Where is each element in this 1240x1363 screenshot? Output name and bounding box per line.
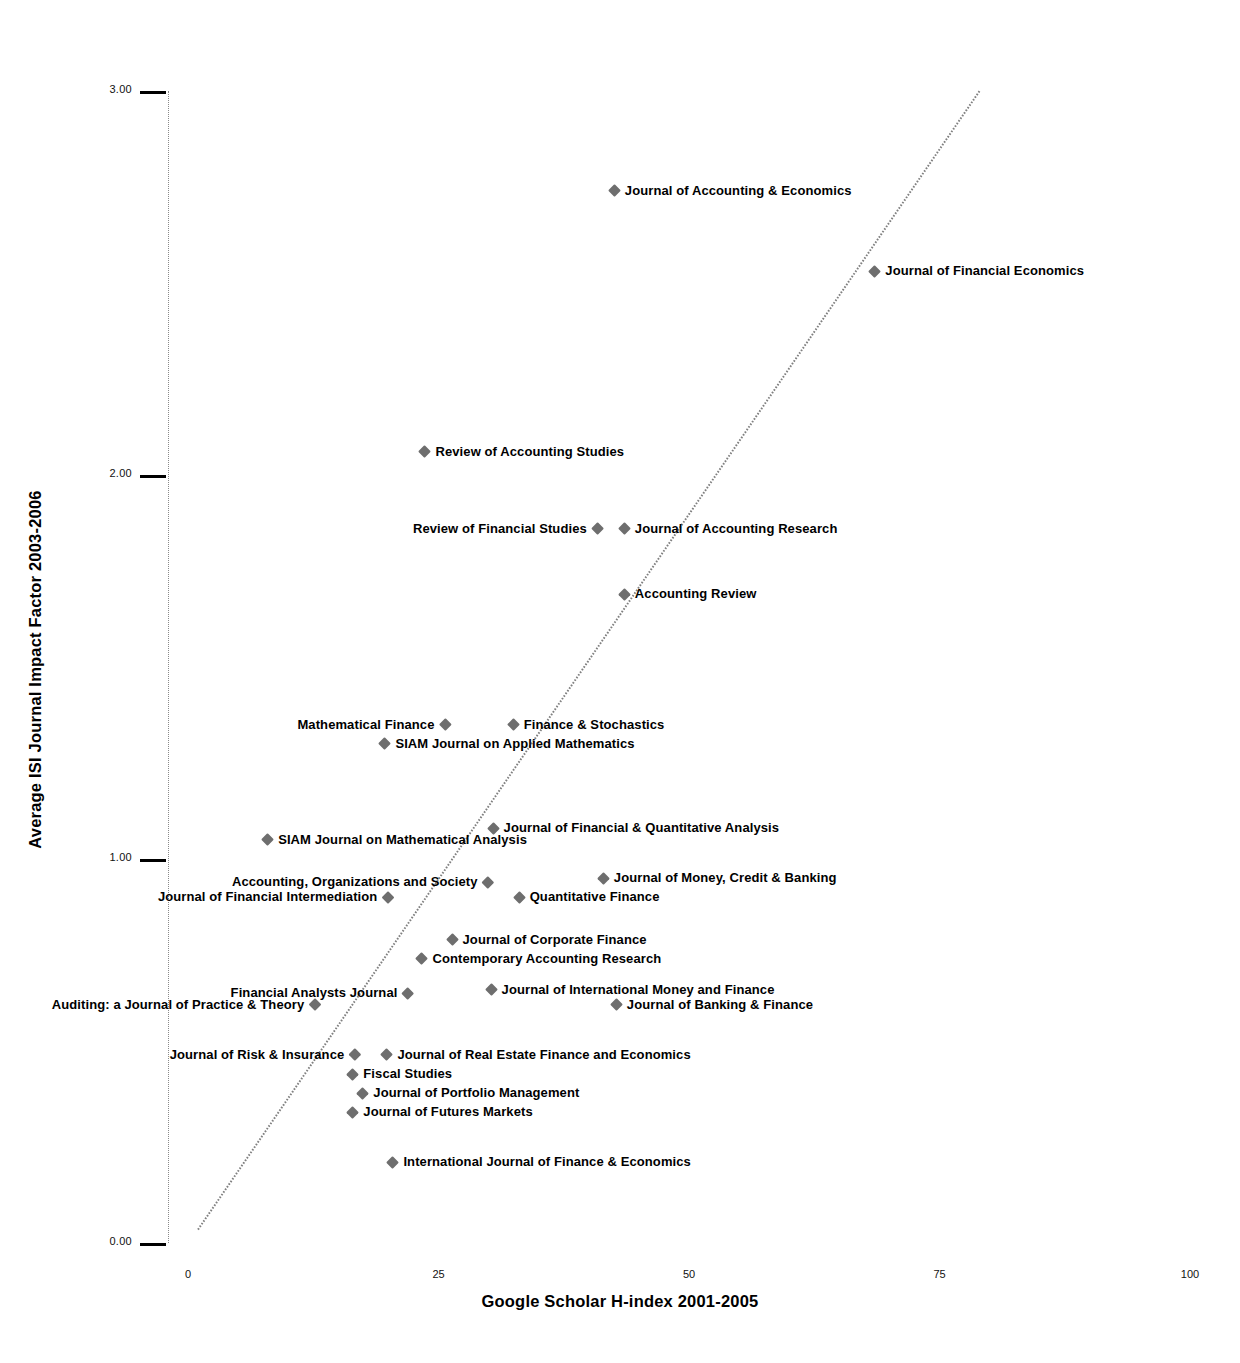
data-point-label: SIAM Journal on Mathematical Analysis (278, 832, 527, 848)
diamond-marker-icon (439, 718, 452, 731)
data-point: Journal of Risk & Insurance (170, 1047, 360, 1063)
data-point: Journal of Financial Intermediation (158, 889, 392, 905)
data-point-label: Auditing: a Journal of Practice & Theory (52, 997, 304, 1013)
data-point-label: Quantitative Finance (530, 889, 660, 905)
data-point: SIAM Journal on Applied Mathematics (380, 736, 634, 752)
diamond-marker-icon (379, 737, 392, 750)
y-tick-label: 1.00 (88, 851, 132, 863)
diamond-marker-icon (261, 833, 274, 846)
data-point: Finance & Stochastics (509, 717, 665, 733)
data-point-label: Accounting, Organizations and Society (232, 874, 478, 890)
x-tick-label-0: 0 (185, 1268, 191, 1280)
diamond-marker-icon (618, 588, 631, 601)
diamond-marker-icon (618, 522, 631, 535)
data-point-label: Accounting Review (635, 586, 757, 602)
data-point-label: Finance & Stochastics (524, 717, 665, 733)
data-point: Journal of Accounting & Economics (610, 183, 852, 199)
data-point: Journal of Banking & Finance (612, 997, 813, 1013)
data-point: Review of Accounting Studies (420, 444, 624, 460)
data-point: International Journal of Finance & Econo… (388, 1154, 691, 1170)
diamond-marker-icon (513, 891, 526, 904)
data-point-label: Review of Accounting Studies (435, 444, 624, 460)
y-tick-mark (140, 91, 166, 94)
x-tick-label-100: 100 (1181, 1268, 1199, 1280)
diamond-marker-icon (446, 933, 459, 946)
y-tick-mark (140, 1243, 166, 1246)
diamond-marker-icon (485, 983, 498, 996)
data-point: Fiscal Studies (348, 1066, 452, 1082)
data-point: Journal of Futures Markets (348, 1104, 532, 1120)
data-point: Journal of International Money and Finan… (487, 982, 775, 998)
diamond-marker-icon (416, 952, 429, 965)
diamond-marker-icon (381, 1048, 394, 1061)
diamond-marker-icon (868, 265, 881, 278)
data-point: Mathematical Finance (297, 717, 449, 733)
data-point: SIAM Journal on Mathematical Analysis (263, 832, 527, 848)
x-tick-label-75: 75 (933, 1268, 945, 1280)
data-point-label: Journal of Banking & Finance (627, 997, 813, 1013)
y-tick-label: 3.00 (88, 83, 132, 95)
y-tick-mark (140, 475, 166, 478)
data-point-label: Journal of Financial Intermediation (158, 889, 377, 905)
diamond-marker-icon (610, 999, 623, 1012)
data-point: Journal of Corporate Finance (448, 932, 647, 948)
diamond-marker-icon (482, 876, 495, 889)
diamond-marker-icon (356, 1087, 369, 1100)
data-point: Review of Financial Studies (413, 521, 602, 537)
data-point-label: Review of Financial Studies (413, 521, 587, 537)
data-point-label: SIAM Journal on Applied Mathematics (395, 736, 634, 752)
diamond-marker-icon (346, 1106, 359, 1119)
diamond-marker-icon (387, 1156, 400, 1169)
data-point: Journal of Money, Credit & Banking (599, 870, 837, 886)
diamond-marker-icon (308, 999, 321, 1012)
data-point: Journal of Portfolio Management (358, 1085, 579, 1101)
data-point-label: Journal of Financial & Quantitative Anal… (504, 820, 780, 836)
diamond-marker-icon (597, 872, 610, 885)
x-tick-label-50: 50 (683, 1268, 695, 1280)
data-point-label: Journal of Financial Economics (885, 263, 1084, 279)
data-point: Journal of Financial & Quantitative Anal… (489, 820, 780, 836)
diamond-marker-icon (507, 718, 520, 731)
data-point-label: Contemporary Accounting Research (432, 951, 661, 967)
data-point-label: Mathematical Finance (297, 717, 434, 733)
y-tick-label: 0.00 (88, 1235, 132, 1247)
data-point: Journal of Real Estate Finance and Econo… (382, 1047, 690, 1063)
diamond-marker-icon (348, 1048, 361, 1061)
data-point-label: Journal of Portfolio Management (373, 1085, 579, 1101)
diamond-marker-icon (346, 1068, 359, 1081)
data-point: Journal of Financial Economics (870, 263, 1084, 279)
data-point: Contemporary Accounting Research (417, 951, 661, 967)
y-tick-mark (140, 859, 166, 862)
data-point-label: Journal of Futures Markets (363, 1104, 532, 1120)
data-point: Journal of Accounting Research (620, 521, 838, 537)
data-point-label: Journal of Corporate Finance (463, 932, 647, 948)
data-point: Quantitative Finance (515, 889, 660, 905)
data-point-label: Journal of Money, Credit & Banking (614, 870, 837, 886)
data-point: Auditing: a Journal of Practice & Theory (52, 997, 319, 1013)
diamond-marker-icon (382, 891, 395, 904)
data-point-label: Journal of Real Estate Finance and Econo… (397, 1047, 690, 1063)
x-tick-label-25: 25 (432, 1268, 444, 1280)
plot-area: 0.001.002.003.00 0255075100 Journal of A… (0, 0, 1240, 1363)
data-point-label: Journal of Accounting Research (635, 521, 838, 537)
data-point-label: Fiscal Studies (363, 1066, 452, 1082)
x-axis-title: Google Scholar H-index 2001-2005 (0, 1292, 1240, 1311)
data-point: Accounting, Organizations and Society (232, 874, 493, 890)
diamond-marker-icon (608, 184, 621, 197)
data-point: Accounting Review (620, 586, 757, 602)
diamond-marker-icon (402, 987, 415, 1000)
scatter-chart: 0.001.002.003.00 0255075100 Journal of A… (0, 0, 1240, 1363)
data-point-label: Journal of Risk & Insurance (170, 1047, 345, 1063)
data-point-label: International Journal of Finance & Econo… (403, 1154, 691, 1170)
data-point-label: Journal of Accounting & Economics (625, 183, 852, 199)
diamond-marker-icon (419, 446, 432, 459)
y-tick-label: 2.00 (88, 467, 132, 479)
data-point-label: Journal of International Money and Finan… (502, 982, 775, 998)
diamond-marker-icon (591, 522, 604, 535)
y-axis-title: Average ISI Journal Impact Factor 2003-2… (26, 350, 45, 990)
y-axis-line (168, 91, 169, 1243)
